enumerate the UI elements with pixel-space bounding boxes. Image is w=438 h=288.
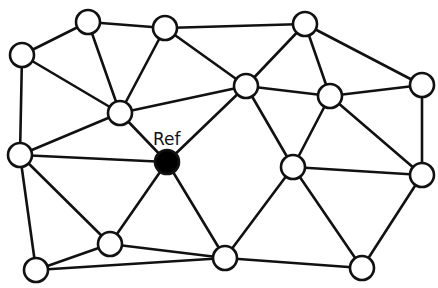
- reference-node: [155, 150, 179, 174]
- edge-J-N: [225, 167, 293, 258]
- node-J: [281, 155, 305, 179]
- node-L: [98, 232, 122, 256]
- node-A: [76, 10, 100, 34]
- node-N: [213, 246, 237, 270]
- edge-L-N: [110, 244, 225, 258]
- ref-label: Ref: [153, 129, 182, 149]
- edge-I-M: [20, 155, 36, 270]
- node-F: [234, 74, 258, 98]
- edge-G-H: [330, 85, 422, 96]
- edge-Ref-N: [167, 162, 225, 258]
- edge-G-K: [330, 96, 422, 175]
- node-K: [410, 163, 434, 187]
- node-M: [24, 258, 48, 282]
- edge-B-C: [165, 24, 305, 28]
- edge-F-J: [246, 86, 293, 167]
- edge-B-F: [165, 28, 246, 86]
- edge-K-O: [362, 175, 422, 268]
- node-H: [410, 73, 434, 97]
- edge-N-O: [225, 258, 362, 268]
- edge-B-E: [120, 28, 165, 113]
- node-I: [8, 143, 32, 167]
- node-B: [153, 16, 177, 40]
- nodes-layer: [8, 10, 434, 282]
- edge-Ref-L: [110, 162, 167, 244]
- edge-D-E: [22, 55, 120, 113]
- node-E: [108, 101, 132, 125]
- edge-E-I: [20, 113, 120, 155]
- edges-layer: [20, 22, 422, 270]
- edge-A-E: [88, 22, 120, 113]
- edge-F-Ref: [167, 86, 246, 162]
- node-G: [318, 84, 342, 108]
- edge-D-I: [20, 55, 22, 155]
- network-graph: Ref: [0, 0, 438, 288]
- edge-J-O: [293, 167, 362, 268]
- edge-I-Ref: [20, 155, 167, 162]
- node-O: [350, 256, 374, 280]
- edge-E-F: [120, 86, 246, 113]
- node-D: [10, 43, 34, 67]
- node-C: [293, 12, 317, 36]
- edge-I-L: [20, 155, 110, 244]
- edge-J-K: [293, 167, 422, 175]
